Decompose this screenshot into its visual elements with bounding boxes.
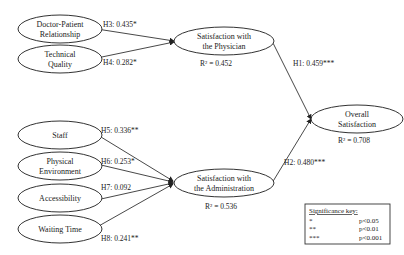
coef-h7: H7: 0.092 xyxy=(101,183,131,192)
coef-h8: H8: 0.241** xyxy=(101,234,139,243)
node-sat-admin: Satisfaction with the Administration R² … xyxy=(174,169,274,211)
path-diagram: Doctor-Patient Relationship Technical Qu… xyxy=(0,0,404,255)
significance-key: Significance key: * p<0.05 ** p<0.01 ***… xyxy=(305,204,390,244)
svg-text:Doctor-Patient: Doctor-Patient xyxy=(37,20,85,29)
svg-text:p<0.001: p<0.001 xyxy=(359,234,383,242)
edge-h6 xyxy=(101,165,173,182)
svg-text:the Administration: the Administration xyxy=(194,184,254,193)
svg-text:Relationship: Relationship xyxy=(40,30,80,39)
svg-text:Environment: Environment xyxy=(39,167,82,176)
svg-text:Satisfaction with: Satisfaction with xyxy=(197,174,251,183)
svg-text:p<0.01: p<0.01 xyxy=(359,225,379,233)
edge-h4 xyxy=(97,42,174,58)
svg-text:Satisfaction: Satisfaction xyxy=(338,120,376,129)
coef-h3: H3: 0.435* xyxy=(103,20,137,29)
svg-text:***: *** xyxy=(309,234,320,242)
coef-h1: H1: 0.459*** xyxy=(293,59,335,68)
svg-text:Quality: Quality xyxy=(48,60,72,69)
node-waiting-time: Waiting Time xyxy=(18,215,102,243)
svg-text:Accessibility: Accessibility xyxy=(39,194,81,203)
coef-h5: H5: 0.336** xyxy=(101,126,139,135)
svg-text:**: ** xyxy=(309,225,317,233)
svg-text:*: * xyxy=(309,217,313,225)
key-title: Significance key: xyxy=(309,207,358,215)
svg-text:Satisfaction with: Satisfaction with xyxy=(197,32,251,41)
node-technical-quality: Technical Quality xyxy=(18,45,102,73)
node-staff: Staff xyxy=(18,121,102,149)
r2-overall: R² = 0.708 xyxy=(338,136,370,145)
svg-text:p<0.05: p<0.05 xyxy=(359,217,379,225)
coef-h6: H6: 0.253* xyxy=(101,157,135,166)
node-doctor-patient: Doctor-Patient Relationship xyxy=(18,15,102,43)
coef-h2: H2: 0.480*** xyxy=(284,158,326,167)
node-sat-physician: Satisfaction with the Physician R² = 0.4… xyxy=(174,27,274,68)
node-physical-environment: Physical Environment xyxy=(18,152,102,180)
r2-admin: R² = 0.536 xyxy=(205,202,237,211)
edge-h3 xyxy=(97,29,174,41)
svg-text:Technical: Technical xyxy=(45,50,77,59)
node-overall: Overall Satisfaction R² = 0.708 xyxy=(311,105,403,145)
edge-h2 xyxy=(272,119,311,183)
edge-h1 xyxy=(272,41,311,119)
svg-text:Overall: Overall xyxy=(345,110,370,119)
r2-physician: R² = 0.452 xyxy=(200,59,232,68)
coef-h4: H4: 0.282* xyxy=(103,58,137,67)
svg-text:the Physician: the Physician xyxy=(203,42,246,51)
node-accessibility: Accessibility xyxy=(18,184,102,212)
svg-text:Waiting Time: Waiting Time xyxy=(38,225,82,234)
svg-text:Staff: Staff xyxy=(52,131,68,140)
svg-text:Physical: Physical xyxy=(46,157,74,166)
